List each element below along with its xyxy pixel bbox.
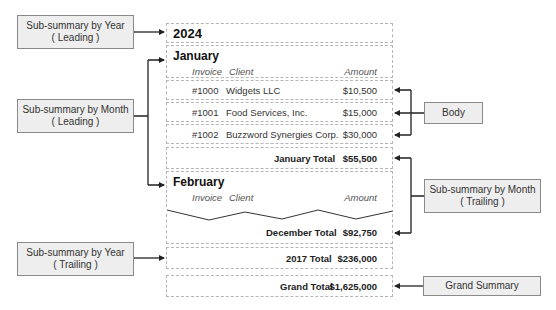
label-line1: Grand Summary	[445, 280, 518, 292]
label-body: Body	[424, 102, 483, 124]
arrow-month-leading	[134, 60, 164, 185]
cell-client: Food Services, Inc.	[226, 107, 307, 118]
part-month-trailing-january: January Total $55,500	[166, 147, 393, 169]
grand-total-value: $1,625,000	[329, 281, 377, 292]
part-grand-summary: Grand Total $1,625,000	[166, 275, 393, 297]
arrow-month-trailing	[396, 158, 424, 233]
column-header-invoice: Invoice	[192, 192, 222, 203]
january-total-label: January Total	[274, 153, 335, 164]
part-month-header-february: February Invoice Client Amount	[166, 171, 393, 207]
month-heading: February	[173, 175, 224, 189]
column-header-amount: Amount	[344, 66, 377, 77]
label-subsummary-month-trailing: Sub-summary by Month ( Trailing )	[424, 179, 541, 213]
cell-amount: $15,000	[343, 107, 377, 118]
part-month-trailing-december: December Total $92,750	[166, 214, 393, 244]
cell-amount: $30,000	[343, 129, 377, 140]
cell-client: Buzzword Synergies Corp.	[226, 129, 338, 140]
label-line2: ( Leading )	[52, 32, 100, 44]
label-line1: Sub-summary by Year	[26, 20, 124, 32]
label-subsummary-year-leading: Sub-summary by Year ( Leading )	[17, 15, 134, 49]
label-line1: Sub-summary by Month	[429, 184, 535, 196]
december-total-label: December Total	[266, 227, 337, 238]
cell-client: Widgets LLC	[226, 85, 280, 96]
label-line2: ( Leading )	[52, 116, 100, 128]
part-month-header-january: January Invoice Client Amount	[166, 45, 393, 78]
label-grand-summary: Grand Summary	[423, 276, 541, 296]
cell-invoice: #1002	[192, 129, 218, 140]
part-year-header: 2024	[166, 23, 393, 43]
year-heading: 2024	[173, 26, 202, 41]
table-row: #1001 Food Services, Inc. $15,000	[166, 102, 393, 122]
label-line1: Sub-summary by Year	[26, 247, 124, 259]
label-line2: ( Trailing )	[53, 259, 97, 271]
column-header-client: Client	[229, 192, 253, 203]
label-line2: ( Trailing )	[460, 196, 504, 208]
january-total-value: $55,500	[343, 153, 377, 164]
arrow-body	[396, 90, 424, 135]
grand-total-label: Grand Total	[280, 281, 333, 292]
year-total-label: 2017 Total	[286, 253, 332, 264]
year-total-value: $236,000	[337, 253, 377, 264]
part-year-trailing: 2017 Total $236,000	[166, 247, 393, 269]
column-header-amount: Amount	[344, 192, 377, 203]
cell-amount: $10,500	[343, 85, 377, 96]
column-header-invoice: Invoice	[192, 66, 222, 77]
table-row: #1000 Widgets LLC $10,500	[166, 80, 393, 100]
label-line1: Sub-summary by Month	[22, 104, 128, 116]
label-subsummary-year-trailing: Sub-summary by Year ( Trailing )	[17, 242, 134, 276]
label-subsummary-month-leading: Sub-summary by Month ( Leading )	[17, 99, 134, 133]
month-heading: January	[173, 49, 219, 63]
label-line1: Body	[442, 107, 465, 119]
table-row: #1002 Buzzword Synergies Corp. $30,000	[166, 124, 393, 144]
column-header-client: Client	[229, 66, 253, 77]
december-total-value: $92,750	[343, 227, 377, 238]
cell-invoice: #1001	[192, 107, 218, 118]
cell-invoice: #1000	[192, 85, 218, 96]
